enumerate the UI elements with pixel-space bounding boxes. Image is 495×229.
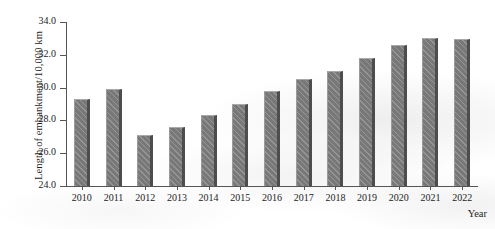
- y-tick: 30.0: [60, 88, 66, 89]
- y-tick-label: 24.0: [39, 179, 57, 190]
- y-tick-label: 28.0: [39, 113, 57, 124]
- bar-chart: Length of embankment/10,000 km Year 24.0…: [0, 0, 495, 229]
- bar: [391, 45, 407, 186]
- y-tick-label: 30.0: [39, 81, 57, 92]
- bar: [74, 99, 90, 186]
- x-tick: [367, 186, 368, 190]
- y-tick-label: 32.0: [39, 48, 57, 59]
- x-tick: [399, 186, 400, 190]
- x-tick: [462, 186, 463, 190]
- x-tick: [240, 186, 241, 190]
- bar: [232, 104, 248, 186]
- bar: [454, 39, 470, 186]
- y-tick: 28.0: [60, 120, 66, 121]
- bar: [137, 135, 153, 186]
- y-tick: 32.0: [60, 55, 66, 56]
- y-tick-label: 34.0: [39, 15, 57, 26]
- x-tick: [272, 186, 273, 190]
- x-axis-title: Year: [468, 208, 487, 219]
- y-tick: 24.0: [60, 186, 66, 187]
- bar: [359, 58, 375, 186]
- bar: [106, 89, 122, 186]
- bar: [201, 115, 217, 186]
- x-tick: [82, 186, 83, 190]
- y-axis-title: Length of embankment/10,000 km: [33, 21, 44, 191]
- y-tick: 26.0: [60, 153, 66, 154]
- plot-area: 24.026.028.030.032.034.0 201020112012201…: [66, 22, 478, 186]
- bar: [169, 127, 185, 186]
- bar: [327, 71, 343, 186]
- x-tick: [430, 186, 431, 190]
- bar: [264, 91, 280, 186]
- y-tick-label: 26.0: [39, 146, 57, 157]
- x-tick: [145, 186, 146, 190]
- x-tick: [114, 186, 115, 190]
- bar: [296, 79, 312, 186]
- y-tick: 34.0: [60, 22, 66, 23]
- x-tick: [335, 186, 336, 190]
- y-axis-line: [66, 22, 67, 186]
- x-tick: [304, 186, 305, 190]
- bar: [422, 38, 438, 186]
- x-tick: [209, 186, 210, 190]
- x-tick: [177, 186, 178, 190]
- x-tick-label: 2022: [442, 192, 482, 203]
